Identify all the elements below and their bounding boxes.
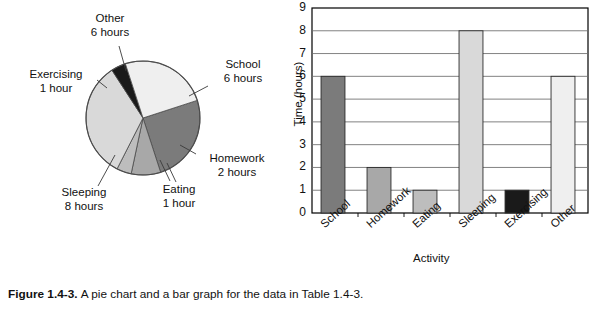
pie-label-sleeping-value: 8 hours	[44, 200, 124, 214]
figure-caption: Figure 1.4-3. A pie chart and a bar grap…	[8, 287, 588, 301]
pie-label-homework: Homework 2 hours	[196, 152, 278, 179]
figure-1-4-3: Other 6 hours Exercising 1 hour School 6…	[0, 0, 600, 311]
pie-label-sleeping-name: Sleeping	[62, 186, 107, 198]
y-tick-label-1: 1	[288, 182, 306, 196]
y-tick-label-0: 0	[288, 205, 306, 219]
pie-label-school: School 6 hours	[207, 58, 279, 85]
pie-label-other-name: Other	[96, 12, 125, 24]
pie-label-homework-value: 2 hours	[196, 166, 278, 180]
pie-label-eating: Eating 1 hour	[146, 183, 212, 210]
pie-label-eating-value: 1 hour	[146, 197, 212, 211]
plot-frame	[312, 8, 588, 213]
y-tick-label-6: 6	[288, 68, 306, 82]
pie-label-exercising-value: 1 hour	[14, 82, 98, 96]
bar-sleeping	[459, 31, 483, 213]
bar-other	[551, 76, 575, 213]
pie-label-exercising-name: Exercising	[29, 68, 82, 80]
pie-label-school-name: School	[225, 58, 260, 70]
y-tick-label-4: 4	[288, 114, 306, 128]
pie-chart-panel: Other 6 hours Exercising 1 hour School 6…	[0, 0, 290, 265]
bar-school	[321, 76, 345, 213]
pie-label-other-value: 6 hours	[70, 26, 150, 40]
y-tick-label-5: 5	[288, 91, 306, 105]
pie-label-other: Other 6 hours	[70, 12, 150, 39]
caption-figure-number: Figure 1.4-3.	[8, 287, 78, 301]
pie-label-sleeping: Sleeping 8 hours	[44, 186, 124, 213]
caption-text: A pie chart and a bar graph for the data…	[81, 287, 363, 301]
y-tick-label-9: 9	[288, 0, 306, 14]
y-tick-label-2: 2	[288, 159, 306, 173]
pie-label-eating-name: Eating	[163, 183, 196, 195]
x-axis-label: Activity	[413, 252, 449, 264]
pie-slices	[86, 61, 200, 175]
pie-label-exercising: Exercising 1 hour	[14, 68, 98, 95]
y-tick-label-8: 8	[288, 23, 306, 37]
y-tick-label-3: 3	[288, 137, 306, 151]
pie-label-school-value: 6 hours	[207, 72, 279, 86]
y-tick-label-7: 7	[288, 46, 306, 60]
pie-label-homework-name: Homework	[210, 152, 265, 164]
pie-chart-svg	[0, 0, 290, 265]
bar-chart-panel: Time (hours) Activity 0123456789 SchoolH…	[278, 0, 600, 270]
